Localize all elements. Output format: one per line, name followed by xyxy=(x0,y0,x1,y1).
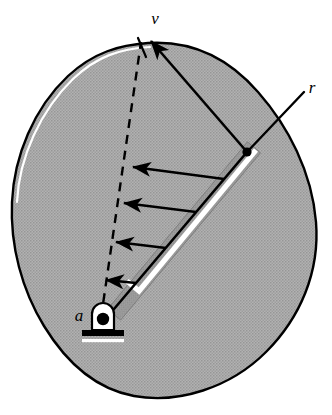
pivot-label: a xyxy=(75,306,84,325)
tip-node-dot xyxy=(242,147,251,156)
pivot-base-plate xyxy=(82,330,124,336)
radius-label: r xyxy=(309,78,316,97)
pivot-base-highlight xyxy=(82,339,124,342)
velocity-label: v xyxy=(151,9,159,28)
pivot-hub xyxy=(97,313,109,325)
figure-root: v r a xyxy=(0,0,332,415)
rigid-body-blob xyxy=(12,43,317,398)
mechanics-diagram: v r a xyxy=(0,0,332,415)
